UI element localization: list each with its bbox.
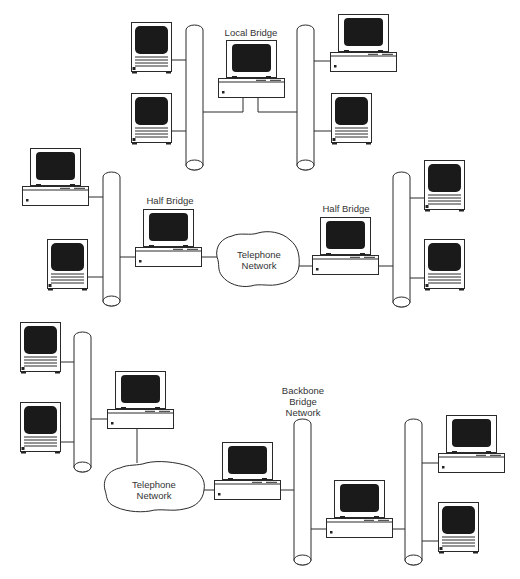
compact-computer-icon [132, 23, 172, 74]
desktop-computer-icon [23, 149, 89, 206]
compact-computer-icon [21, 323, 61, 374]
compact-computer-icon [132, 94, 172, 145]
link [203, 97, 243, 112]
compact-computer-icon [48, 240, 88, 291]
compact-computer-icon [332, 94, 372, 145]
backbone-label-line3: Network [286, 407, 321, 418]
half-bridge-computer-icon [313, 218, 379, 275]
lan-segment-pipe [393, 172, 410, 307]
compact-computer-icon [425, 240, 465, 291]
telephone-network-cloud: Telephone Network [217, 232, 300, 287]
telephone-network-cloud: Telephone Network [104, 462, 204, 512]
bridge-computer-icon [219, 41, 285, 98]
bridge-computer-icon [108, 372, 174, 429]
desktop-computer-icon [331, 15, 397, 72]
half-bridge-computer-icon [136, 210, 202, 267]
cloud-label-line2: Network [242, 260, 277, 271]
lan-segment-pipe [297, 25, 314, 170]
local-bridge-label: Local Bridge [225, 27, 278, 38]
lan-segment-pipe [186, 25, 203, 170]
network-bridge-diagram: Local Bridge Telephone Network Half [0, 0, 520, 579]
cloud-label-line1: Telephone [237, 249, 281, 260]
half-bridge-right-label: Half Bridge [323, 203, 370, 214]
backbone-pipe [294, 419, 311, 565]
cloud-label-line2: Network [137, 490, 172, 501]
section-local-bridge: Local Bridge [132, 15, 397, 171]
bridge-computer-icon [215, 443, 281, 500]
desktop-computer-icon [439, 416, 505, 473]
cloud-label-line1: Telephone [132, 479, 176, 490]
half-bridge-left-label: Half Bridge [147, 195, 194, 206]
bridge-computer-icon [327, 481, 393, 538]
lan-segment-pipe [405, 419, 422, 565]
link [258, 97, 297, 112]
lan-segment-pipe [74, 332, 91, 472]
backbone-label-line1: Backbone [282, 385, 324, 396]
compact-computer-icon [425, 161, 465, 212]
backbone-label-line2: Bridge [289, 396, 316, 407]
section-backbone-bridge: Telephone Network Backbone Bridge Networ… [21, 323, 505, 566]
compact-computer-icon [439, 503, 479, 554]
lan-segment-pipe [103, 172, 120, 306]
section-half-bridges: Telephone Network Half Bridge Half Bridg… [23, 149, 465, 308]
compact-computer-icon [21, 403, 61, 454]
